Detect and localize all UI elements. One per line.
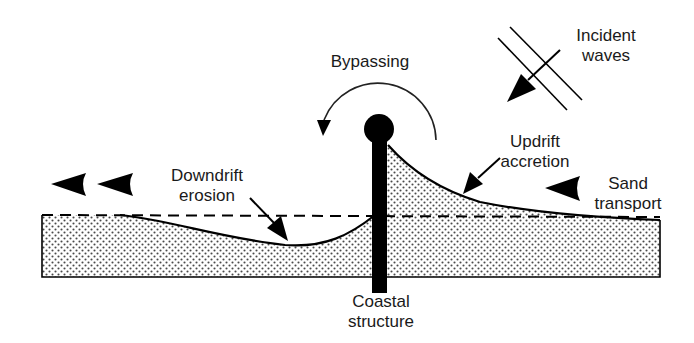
label-bypassing: Bypassing: [320, 52, 420, 72]
label-updrift-line1: Updrift: [480, 132, 590, 152]
label-coastal-line1: Coastal: [326, 292, 436, 312]
label-sand-line2: transport: [580, 194, 676, 214]
label-incident-waves-line1: Incident: [556, 26, 656, 46]
label-coastal-structure: Coastal structure: [326, 292, 436, 332]
coastal-structure-head: [364, 114, 394, 144]
label-downdrift-erosion: Downdrift erosion: [152, 166, 262, 206]
sand-transport-arrow-2-icon: [97, 173, 133, 196]
label-coastal-line2: structure: [326, 312, 436, 332]
label-sand-transport: Sand transport: [580, 174, 676, 214]
sand-transport-arrow-3-icon: [545, 176, 580, 201]
coastal-structure-pole: [372, 128, 387, 293]
bypassing-arrowhead-icon: [317, 120, 331, 136]
label-downdrift-line1: Downdrift: [152, 166, 262, 186]
label-incident-waves: Incident waves: [556, 26, 656, 66]
label-incident-waves-line2: waves: [556, 46, 656, 66]
label-sand-line1: Sand: [580, 174, 676, 194]
sand-transport-arrow-1-icon: [51, 173, 86, 196]
wave-arrowhead-icon: [507, 74, 536, 102]
label-updrift-accretion: Updrift accretion: [480, 132, 590, 172]
label-downdrift-line2: erosion: [152, 186, 262, 206]
label-updrift-line2: accretion: [480, 152, 590, 172]
label-bypassing-text: Bypassing: [331, 52, 409, 71]
